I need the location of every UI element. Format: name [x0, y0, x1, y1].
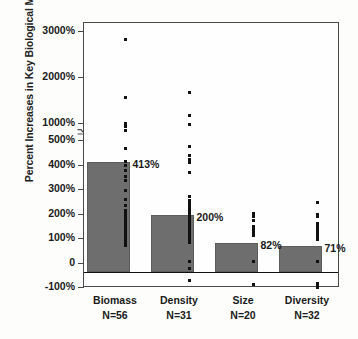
value-label-size: 82%	[261, 239, 282, 251]
data-point	[188, 161, 191, 164]
data-point	[252, 260, 255, 263]
data-point	[188, 114, 191, 117]
y-tick-mark	[78, 287, 84, 288]
y-tick-label: 300%	[23, 182, 75, 194]
data-point	[124, 160, 127, 163]
data-point	[188, 279, 191, 282]
category-name: Density	[147, 293, 211, 308]
data-point	[316, 201, 319, 204]
chart-figure: Percent Increases in Key Biological Meas…	[0, 0, 358, 339]
value-label-diversity: 71%	[325, 242, 346, 254]
data-point	[188, 260, 191, 263]
data-point	[188, 241, 191, 244]
data-point	[124, 164, 127, 167]
data-point	[316, 260, 319, 263]
data-point	[188, 171, 191, 174]
data-point	[252, 234, 255, 237]
category-sample-size: N=56	[83, 308, 147, 323]
data-point	[124, 244, 127, 247]
bar-size	[215, 243, 258, 272]
category-name: Size	[211, 293, 275, 308]
data-point	[316, 238, 319, 241]
data-point	[316, 222, 319, 225]
y-tick-label: 200%	[23, 207, 75, 219]
y-tick-label: 1000%	[23, 116, 75, 128]
data-point	[124, 179, 127, 182]
data-point	[316, 215, 319, 218]
y-tick-label: 2000%	[23, 70, 75, 82]
data-point	[188, 91, 191, 94]
data-point	[252, 219, 255, 222]
data-point	[316, 286, 319, 289]
plot-area: 413%200%82%71%	[83, 22, 339, 287]
data-point	[124, 129, 127, 132]
x-category-density: DensityN=31	[147, 293, 211, 322]
y-tick-label: 0	[23, 256, 75, 268]
category-sample-size: N=32	[275, 308, 339, 323]
x-category-biomass: BiomassN=56	[83, 293, 147, 322]
x-category-size: SizeN=20	[211, 293, 275, 322]
zero-line	[84, 272, 338, 273]
y-tick-label: 3000%	[23, 24, 75, 36]
data-point	[252, 212, 255, 215]
data-point	[124, 189, 127, 192]
value-label-biomass: 413%	[133, 158, 160, 170]
category-sample-size: N=31	[147, 308, 211, 323]
category-name: Biomass	[83, 293, 147, 308]
category-name: Diversity	[275, 293, 339, 308]
category-sample-size: N=20	[211, 308, 275, 323]
data-point	[188, 154, 191, 157]
data-point	[124, 169, 127, 172]
data-point	[252, 283, 255, 286]
y-tick-label: -100%	[23, 280, 75, 292]
data-point	[124, 204, 127, 207]
data-point	[124, 38, 127, 41]
data-point	[124, 147, 127, 150]
data-point	[124, 96, 127, 99]
data-point	[188, 267, 191, 270]
data-point	[124, 175, 127, 178]
value-label-density: 200%	[197, 211, 224, 223]
data-point	[188, 123, 191, 126]
y-tick-label: 500%	[23, 133, 75, 145]
y-tick-label: 400%	[23, 158, 75, 170]
y-tick-label: 100%	[23, 231, 75, 243]
data-point	[124, 125, 127, 128]
data-point	[188, 145, 191, 148]
x-category-diversity: DiversityN=32	[275, 293, 339, 322]
data-point	[124, 198, 127, 201]
